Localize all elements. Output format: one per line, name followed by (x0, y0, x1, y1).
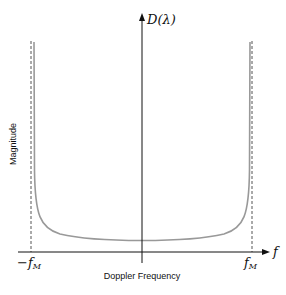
x-axis-title: Doppler Frequency (104, 271, 181, 281)
x-axis-arrow-icon (262, 249, 270, 255)
y-axis-arrow-icon (139, 13, 145, 21)
pos-fm-sub: M (248, 262, 258, 271)
x-axis-symbol: f (272, 244, 280, 259)
y-axis-title: Magnitude (8, 123, 18, 165)
neg-fm-label: −fM (17, 255, 42, 271)
pos-fm-label: fM (243, 255, 258, 271)
doppler-spectrum-diagram: D(λ) f −fM fM Doppler Frequency Magnitud… (0, 0, 286, 295)
y-axis-symbol: D(λ) (146, 12, 176, 27)
neg-fm-sub: M (32, 262, 42, 271)
